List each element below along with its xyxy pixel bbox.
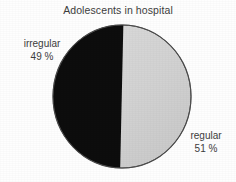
pie-label-regular: regular 51 % bbox=[176, 130, 236, 155]
pie-label-irregular-name: irregular bbox=[6, 38, 78, 51]
pie-label-regular-value: 51 % bbox=[176, 143, 236, 156]
pie-label-regular-name: regular bbox=[176, 130, 236, 143]
pie-chart-figure: Adolescents in hospital bbox=[0, 0, 236, 182]
chart-title: Adolescents in hospital bbox=[0, 4, 236, 16]
pie-label-irregular-value: 49 % bbox=[6, 51, 78, 64]
pie-label-irregular: irregular 49 % bbox=[6, 38, 78, 63]
